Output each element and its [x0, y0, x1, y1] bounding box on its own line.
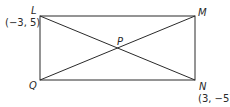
point-q-label: Q — [29, 81, 37, 91]
point-m-label: M — [198, 8, 207, 18]
point-l-label: L — [31, 6, 37, 16]
point-l-coord: (−3, 5) — [5, 18, 40, 28]
point-n-label: N — [199, 82, 206, 92]
point-p-label: P — [117, 37, 123, 47]
point-n-coord: (3, −5) — [198, 94, 230, 104]
